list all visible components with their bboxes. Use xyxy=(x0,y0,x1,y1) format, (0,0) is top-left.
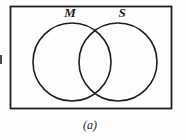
set-circle-s xyxy=(79,23,157,101)
venn-figure: M S (a) xyxy=(0,0,186,140)
figure-caption: (a) xyxy=(83,118,97,132)
set-circle-m xyxy=(33,23,111,101)
universal-set-rectangle xyxy=(11,7,172,109)
venn-diagram-svg: M S (a) xyxy=(0,0,186,140)
set-label-s: S xyxy=(118,5,125,20)
set-label-m: M xyxy=(63,5,76,20)
scan-artifact-mark xyxy=(0,55,2,64)
